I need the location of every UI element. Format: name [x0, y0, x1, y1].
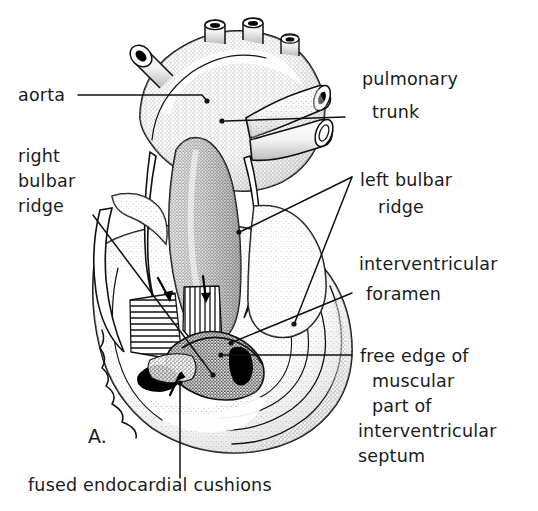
label-interventricular-foramen-line2: foramen: [366, 284, 441, 304]
label-pulmonary-trunk-line1: pulmonary: [362, 69, 458, 89]
label-free-edge-line4: interventricular: [358, 421, 497, 441]
label-free-edge-line5: septum: [358, 446, 425, 466]
label-free-edge-line1: free edge of: [360, 346, 469, 366]
figure-container: aorta right bulbar ridge pulmonary trunk…: [0, 0, 538, 511]
label-left-bulbar-ridge-line1: left bulbar: [360, 170, 453, 190]
branch-2-lumen: [248, 21, 258, 26]
label-free-edge-line3: part of: [372, 396, 432, 416]
label-left-bulbar-ridge-line2: ridge: [378, 197, 424, 217]
label-fused-endocardial-cushions: fused endocardial cushions: [28, 475, 272, 495]
label-right-bulbar-ridge-line1: right: [18, 146, 60, 166]
heart-development-illustration: aorta right bulbar ridge pulmonary trunk…: [0, 0, 538, 511]
panel-letter: A.: [88, 425, 107, 447]
label-right-bulbar-ridge-line3: ridge: [18, 196, 64, 216]
arch-branch-3: [281, 34, 299, 56]
label-interventricular-foramen-line1: interventricular: [359, 254, 498, 274]
branch-1-lumen: [210, 23, 220, 28]
label-pulmonary-trunk-line2: trunk: [372, 102, 420, 122]
label-aorta: aorta: [18, 85, 65, 105]
arch-branch-1: [205, 20, 225, 44]
arch-branch-2: [243, 18, 263, 44]
branch-3-lumen: [286, 37, 295, 41]
label-right-bulbar-ridge-line2: bulbar: [18, 171, 76, 191]
label-free-edge-line2: muscular: [372, 371, 455, 391]
